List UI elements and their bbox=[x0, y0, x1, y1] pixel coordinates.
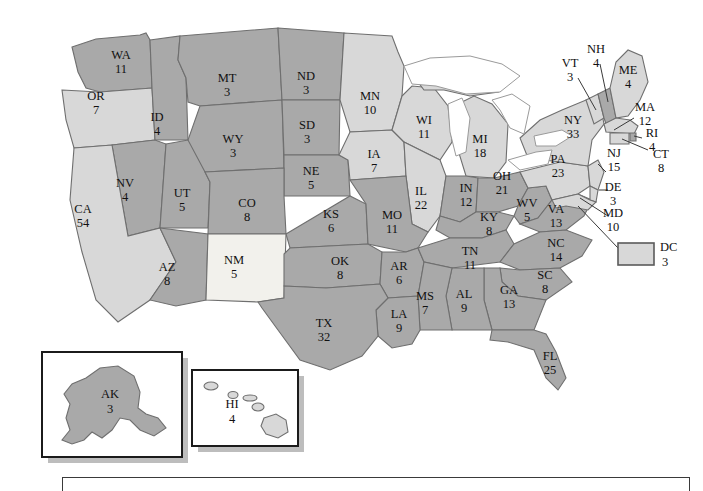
state-label-CT: CT8 bbox=[653, 147, 669, 175]
state-votes-CA: 54 bbox=[77, 216, 90, 230]
state-abbr-SC: SC bbox=[537, 268, 552, 282]
state-abbr-FL: FL bbox=[543, 349, 558, 363]
state-abbr-TX: TX bbox=[316, 316, 333, 330]
alaska-inset: AK 3 bbox=[42, 352, 188, 463]
state-abbr-GA: GA bbox=[500, 283, 518, 297]
state-votes-ID: 4 bbox=[154, 124, 161, 138]
state-label-TN: TN11 bbox=[462, 244, 479, 272]
state-votes-OH: 21 bbox=[496, 183, 509, 197]
state-abbr-AR: AR bbox=[390, 259, 408, 273]
state-votes-WY: 3 bbox=[230, 146, 236, 160]
state-abbr-AZ: AZ bbox=[159, 260, 176, 274]
island-kauai bbox=[204, 382, 218, 390]
state-votes-AL: 9 bbox=[461, 301, 467, 315]
state-shape-RI bbox=[630, 133, 636, 141]
state-abbr-WI: WI bbox=[416, 113, 432, 127]
state-votes-LA: 9 bbox=[396, 321, 402, 335]
state-abbr-NC: NC bbox=[547, 236, 564, 250]
state-abbr-ID: ID bbox=[150, 110, 163, 124]
state-label-TX: TX32 bbox=[316, 316, 333, 344]
state-votes-KS: 6 bbox=[328, 221, 334, 235]
state-abbr-MA: MA bbox=[635, 100, 655, 114]
state-votes-MT: 3 bbox=[224, 85, 230, 99]
dc-label-abbr: DC bbox=[660, 240, 677, 254]
state-votes-NC: 14 bbox=[550, 250, 563, 264]
state-abbr-CA: CA bbox=[74, 202, 91, 216]
state-votes-WI: 11 bbox=[418, 127, 430, 141]
state-label-MA: MA12 bbox=[635, 100, 655, 128]
state-votes-AZ: 8 bbox=[164, 274, 170, 288]
state-votes-NM: 5 bbox=[231, 267, 237, 281]
state-votes-AR: 6 bbox=[396, 273, 402, 287]
state-votes-IA: 7 bbox=[371, 161, 377, 175]
state-abbr-OR: OR bbox=[87, 89, 105, 103]
state-abbr-MN: MN bbox=[360, 89, 380, 103]
state-abbr-LA: LA bbox=[391, 307, 408, 321]
state-abbr-AL: AL bbox=[456, 287, 473, 301]
state-label-WI: WI11 bbox=[416, 113, 432, 141]
state-votes-PA: 23 bbox=[552, 166, 565, 180]
state-votes-OK: 8 bbox=[337, 268, 343, 282]
state-label-MD: MD10 bbox=[603, 206, 623, 234]
state-abbr-NV: NV bbox=[116, 176, 134, 190]
alaska-label-votes: 3 bbox=[107, 402, 113, 416]
state-abbr-NJ: NJ bbox=[607, 146, 621, 160]
state-shape-NC bbox=[500, 230, 592, 270]
state-votes-NJ: 15 bbox=[608, 160, 621, 174]
state-votes-MI: 18 bbox=[474, 146, 487, 160]
us-map-svg: WA11OR7ID4MT3WY3ND3SD3NE5MN10IA7WI11MI18… bbox=[0, 0, 703, 491]
alaska-label-abbr: AK bbox=[101, 387, 119, 401]
state-votes-CO: 8 bbox=[244, 210, 250, 224]
state-abbr-NH: NH bbox=[587, 42, 605, 56]
state-abbr-SD: SD bbox=[299, 118, 315, 132]
state-abbr-OK: OK bbox=[331, 254, 349, 268]
state-abbr-OH: OH bbox=[493, 169, 511, 183]
state-abbr-ME: ME bbox=[619, 63, 638, 77]
state-votes-FL: 25 bbox=[544, 363, 557, 377]
state-label-VA: VA13 bbox=[548, 202, 564, 230]
state-votes-MD: 10 bbox=[607, 220, 620, 234]
state-abbr-KS: KS bbox=[323, 207, 339, 221]
state-shape-ND bbox=[278, 28, 344, 100]
state-votes-SC: 8 bbox=[542, 282, 548, 296]
state-label-CA: CA54 bbox=[74, 202, 91, 230]
hawaii-inset: HI 4 bbox=[192, 370, 304, 452]
state-abbr-NE: NE bbox=[303, 164, 320, 178]
state-votes-ND: 3 bbox=[303, 83, 309, 97]
state-abbr-IL: IL bbox=[415, 184, 427, 198]
state-votes-ME: 4 bbox=[625, 77, 632, 91]
state-abbr-RI: RI bbox=[646, 126, 659, 140]
state-shape-WA bbox=[72, 33, 152, 92]
state-abbr-WY: WY bbox=[223, 132, 244, 146]
state-abbr-NM: NM bbox=[224, 253, 244, 267]
state-abbr-CT: CT bbox=[653, 147, 669, 161]
state-votes-MN: 10 bbox=[364, 103, 377, 117]
state-abbr-UT: UT bbox=[174, 186, 191, 200]
state-abbr-IN: IN bbox=[459, 181, 472, 195]
state-label-IN: IN12 bbox=[459, 181, 472, 209]
state-shape-NM bbox=[206, 234, 286, 302]
state-abbr-TN: TN bbox=[462, 244, 479, 258]
dc-legend: DC 3 bbox=[618, 240, 677, 269]
state-abbr-DE: DE bbox=[605, 180, 622, 194]
state-votes-NE: 5 bbox=[308, 178, 314, 192]
state-label-PA: PA23 bbox=[551, 152, 566, 180]
state-votes-MS: 7 bbox=[422, 303, 428, 317]
bottom-frame-rule bbox=[62, 477, 690, 491]
state-label-VT: VT3 bbox=[562, 56, 579, 84]
state-votes-NH: 4 bbox=[593, 56, 600, 70]
state-label-DE: DE3 bbox=[605, 180, 622, 208]
state-shape-CT bbox=[610, 133, 629, 144]
state-abbr-KY: KY bbox=[480, 210, 498, 224]
state-abbr-CO: CO bbox=[238, 196, 255, 210]
state-votes-UT: 5 bbox=[179, 200, 185, 214]
state-abbr-MI: MI bbox=[472, 132, 487, 146]
state-abbr-MT: MT bbox=[218, 71, 237, 85]
state-abbr-WV: WV bbox=[517, 196, 538, 210]
state-abbr-ND: ND bbox=[297, 69, 315, 83]
state-votes-WV: 5 bbox=[524, 210, 530, 224]
state-abbr-VT: VT bbox=[562, 56, 579, 70]
state-votes-MO: 11 bbox=[386, 222, 398, 236]
state-shape-OR bbox=[62, 88, 155, 148]
state-abbr-MO: MO bbox=[382, 208, 402, 222]
